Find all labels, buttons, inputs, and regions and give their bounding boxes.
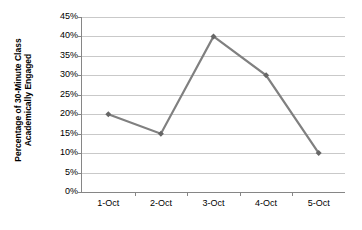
x-axis-tick-mark [187, 192, 188, 196]
x-axis-tick-mark [292, 192, 293, 196]
y-axis-tick-mark [77, 114, 81, 115]
y-axis-tick-mark [77, 17, 81, 18]
y-axis-tick-mark [77, 75, 81, 76]
line-chart: Percentage of 30-Minute Class Academical… [0, 0, 362, 230]
y-axis-tick-mark [77, 36, 81, 37]
y-axis-tick-mark [77, 173, 81, 174]
data-point-marker [105, 111, 111, 117]
y-axis-tick-mark [77, 56, 81, 57]
y-axis-tick-mark [77, 134, 81, 135]
y-axis-tick-mark [77, 153, 81, 154]
x-axis-tick-mark [135, 192, 136, 196]
data-series-layer [0, 0, 362, 230]
y-axis-tick-mark [77, 192, 81, 193]
y-axis-tick-mark [77, 95, 81, 96]
x-axis-tick-mark [240, 192, 241, 196]
series-line [108, 36, 318, 153]
